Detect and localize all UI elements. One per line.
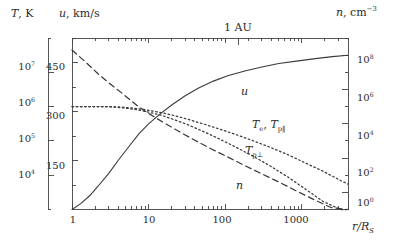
series-te-tp-parallel	[72, 107, 348, 185]
figure-solar-wind-profiles: T, K u, km/s n, cm−3 r/RS 1 AU 107 106 1…	[0, 0, 405, 243]
series-u	[72, 55, 348, 209]
series-n	[72, 50, 348, 210]
series-tp-perp	[72, 107, 348, 210]
plot-area	[0, 0, 405, 243]
